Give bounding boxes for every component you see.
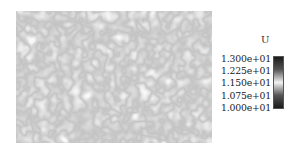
colorbar-tick: 1.075e+01	[221, 90, 273, 102]
colorbar-tick: 1.225e+01	[221, 65, 273, 77]
colorbar-tick: 1.300e+01	[221, 53, 273, 65]
colorbar-tick: 1.150e+01	[221, 77, 273, 89]
field-texture	[16, 11, 212, 143]
colorbar-tick: 1.000e+01	[221, 102, 273, 114]
colorbar-title: U	[261, 34, 269, 45]
colorbar	[273, 56, 284, 109]
colorbar-ticks: 1.300e+01 1.225e+01 1.150e+01 1.075e+01 …	[221, 53, 273, 114]
contour-field	[16, 11, 212, 143]
